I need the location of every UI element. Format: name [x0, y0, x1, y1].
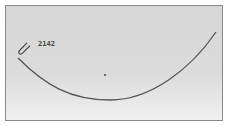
pen-cursor-icon: [18, 43, 30, 55]
curve-label: 2142: [38, 40, 55, 48]
curve-drawing: [0, 0, 232, 127]
center-point: [104, 74, 106, 76]
